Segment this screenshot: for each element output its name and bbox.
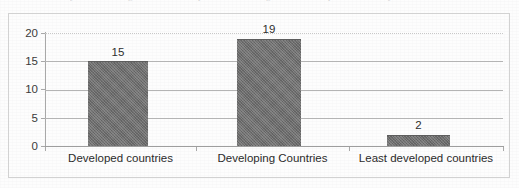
- x-axis-line: [45, 146, 504, 147]
- y-axis-tick-label: 15: [10, 56, 38, 68]
- y-axis-tick-label: 0: [10, 141, 38, 153]
- bar-value-label: 2: [387, 120, 450, 132]
- x-axis-tick-mark: [503, 147, 504, 151]
- y-axis-tick-label: 5: [10, 113, 38, 125]
- bar-developed-countries[interactable]: [88, 61, 148, 146]
- y-axis-labels: 20 15 10 5 0: [8, 0, 38, 188]
- bar-value-label: 19: [237, 24, 301, 36]
- category-label-developing-countries: Developing Countries: [196, 152, 349, 165]
- bar-value-label: 15: [88, 47, 148, 59]
- x-axis-tick-mark: [349, 147, 350, 151]
- category-label-developed-countries: Developed countries: [45, 152, 196, 165]
- clipped-caption-text: y g p g p y: [70, 0, 460, 8]
- bar-least-developed-countries[interactable]: [387, 135, 450, 146]
- y-axis-tick-label: 10: [10, 84, 38, 96]
- category-label-least-developed-countries: Least developed countries: [349, 152, 503, 165]
- scanned-page: y g p g p y 20 15 10 5 0 15 19 2: [0, 0, 519, 188]
- x-axis-tick-mark: [45, 147, 46, 151]
- y-axis-tick-label: 20: [10, 28, 38, 40]
- x-axis-tick-mark: [196, 147, 197, 151]
- bar-developing-countries[interactable]: [237, 39, 301, 146]
